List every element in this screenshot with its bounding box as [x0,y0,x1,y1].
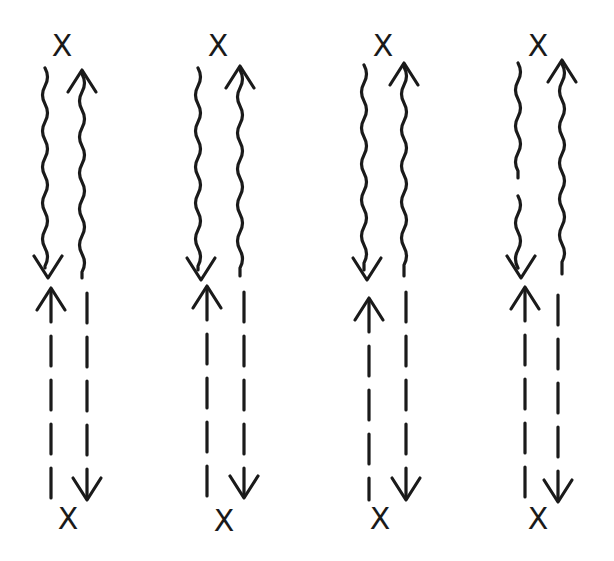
wavy-line-left [187,68,215,280]
vertex-top-label: X [52,28,73,63]
arrow-down-icon [507,256,535,278]
diagram-canvas: XXXXXXXX [0,0,614,561]
vertex-bottom-label: X [214,503,235,538]
wavy-line-right [68,70,96,278]
vertex-top-label: X [528,28,549,63]
dashed-line-left [511,287,539,500]
dashed-line-left [193,286,221,496]
dashed-line-right [544,295,572,502]
vertex-bottom-label: X [58,501,79,536]
dashed-line-right [230,292,258,498]
feynman-panel-3: XX [353,28,420,536]
arrow-down-icon [353,258,381,280]
wavy-line-right [548,60,576,274]
wavy-line-left [353,65,381,280]
vertex-bottom-label: X [528,501,549,536]
wavy-line-left [507,63,535,278]
feynman-panel-4: XX [507,28,576,536]
dashed-line-left [355,298,383,500]
dashed-line-right [392,292,420,500]
feynman-panel-2: XX [187,28,258,538]
wavy-line-left [34,68,62,278]
wavy-line-right [226,66,254,276]
vertex-bottom-label: X [370,501,391,536]
wavy-line-right [390,63,418,276]
dashed-line-right [73,293,101,500]
dashed-line-left [37,288,65,498]
vertex-top-label: X [208,28,229,63]
feynman-panel-1: XX [34,28,101,536]
vertex-top-label: X [373,28,394,63]
